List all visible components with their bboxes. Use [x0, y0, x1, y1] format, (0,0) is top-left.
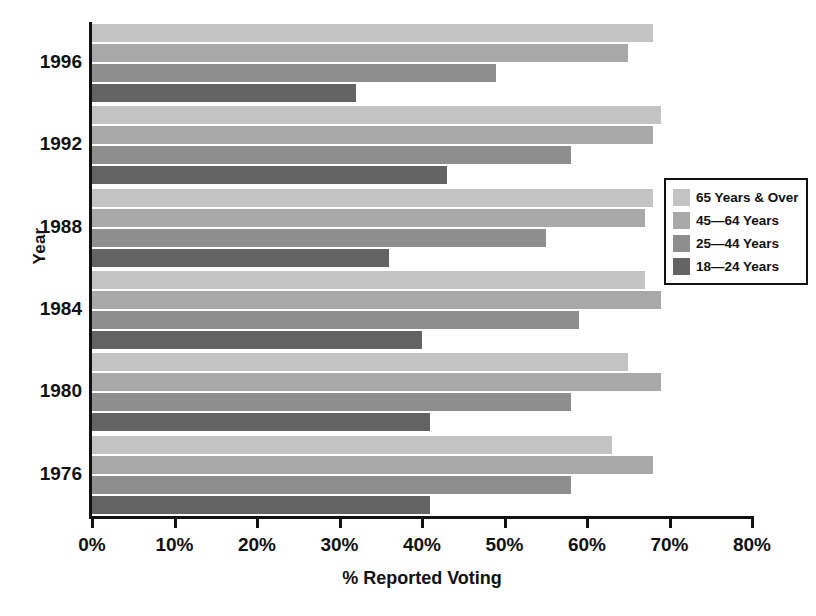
legend-item[interactable]: 18—24 Years	[673, 256, 800, 276]
x-axis-tick-label: 40%	[382, 534, 462, 556]
legend-item-label: 45—64 Years	[696, 213, 779, 228]
bar	[92, 84, 356, 102]
x-axis-tick	[669, 516, 672, 528]
legend-item-label: 65 Years & Over	[696, 190, 799, 205]
x-axis-tick	[586, 516, 589, 528]
x-axis-tick-label: 80%	[712, 534, 792, 556]
bar	[92, 456, 653, 474]
bar	[92, 476, 571, 494]
legend-item-label: 18—24 Years	[696, 259, 779, 274]
legend-swatch-icon	[673, 258, 690, 275]
bar-group: 1980	[92, 353, 752, 431]
legend-item[interactable]: 65 Years & Over	[673, 187, 800, 207]
bar	[92, 271, 645, 289]
bar	[92, 166, 447, 184]
bar	[92, 189, 653, 207]
bar	[92, 209, 645, 227]
bar	[92, 44, 628, 62]
bar-group: 1992	[92, 106, 752, 184]
x-axis-tick	[421, 516, 424, 528]
y-axis-category-label: 1976	[14, 463, 82, 485]
vertical-bar-chart: Year 0%10%20%30%40%50%60%70%80%199619921…	[0, 0, 816, 616]
x-axis-tick	[504, 516, 507, 528]
bar	[92, 413, 430, 431]
bar	[92, 24, 653, 42]
bar	[92, 291, 661, 309]
plot-area: 0%10%20%30%40%50%60%70%80%19961992198819…	[92, 22, 752, 516]
bar	[92, 106, 661, 124]
bar	[92, 496, 430, 514]
y-axis-category-label: 1992	[14, 133, 82, 155]
bar	[92, 146, 571, 164]
x-axis-tick	[174, 516, 177, 528]
x-axis-tick	[91, 516, 94, 528]
y-axis-category-label: 1988	[14, 216, 82, 238]
bar-group: 1976	[92, 436, 752, 514]
bar	[92, 373, 661, 391]
x-axis-tick-label: 20%	[217, 534, 297, 556]
x-axis-tick-label: 10%	[135, 534, 215, 556]
legend-swatch-icon	[673, 212, 690, 229]
bar	[92, 249, 389, 267]
legend-swatch-icon	[673, 235, 690, 252]
x-axis-tick	[256, 516, 259, 528]
x-axis-tick-label: 60%	[547, 534, 627, 556]
y-axis-category-label: 1984	[14, 298, 82, 320]
legend-item[interactable]: 25—44 Years	[673, 233, 800, 253]
y-axis-category-label: 1996	[14, 51, 82, 73]
x-axis-tick	[339, 516, 342, 528]
x-axis-tick-label: 70%	[630, 534, 710, 556]
bar	[92, 64, 496, 82]
bar-group: 1988	[92, 189, 752, 267]
bar	[92, 393, 571, 411]
bar-group: 1984	[92, 271, 752, 349]
bar	[92, 126, 653, 144]
x-axis-tick-label: 50%	[465, 534, 545, 556]
bar	[92, 436, 612, 454]
legend-item[interactable]: 45—64 Years	[673, 210, 800, 230]
bar	[92, 353, 628, 371]
chart-legend: 65 Years & Over45—64 Years25—44 Years18—…	[664, 178, 808, 285]
x-axis-tick-label: 30%	[300, 534, 380, 556]
x-axis-tick-label: 0%	[52, 534, 132, 556]
bar	[92, 311, 579, 329]
bar-group: 1996	[92, 24, 752, 102]
bar	[92, 331, 422, 349]
bar	[92, 229, 546, 247]
legend-swatch-icon	[673, 189, 690, 206]
x-axis-tick	[751, 516, 754, 528]
y-axis-category-label: 1980	[14, 380, 82, 402]
x-axis-title: % Reported Voting	[92, 568, 752, 589]
legend-item-label: 25—44 Years	[696, 236, 779, 251]
y-axis-title: Year	[30, 186, 50, 306]
